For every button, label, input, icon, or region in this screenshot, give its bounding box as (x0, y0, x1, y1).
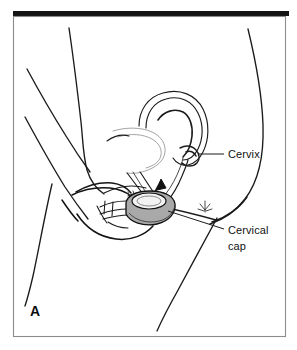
cervix-label: Cervix (228, 148, 260, 160)
forearm-contour (25, 117, 88, 219)
figure-frame (14, 17, 286, 337)
torso-contour (69, 28, 104, 194)
finger-crease-3 (97, 206, 107, 223)
middle-finger (103, 215, 129, 219)
uterus-outline (139, 91, 208, 165)
cervical-cap-illustration: Cervix Cervical cap A (0, 0, 297, 350)
top-rule-bar (13, 11, 289, 16)
panel-letter-label: A (30, 303, 40, 319)
finger-crease-2 (112, 202, 113, 216)
anus-marking (198, 201, 212, 212)
right-thigh-contour (157, 218, 217, 331)
buttock-contour (210, 29, 263, 224)
pubic-bone-outline (107, 135, 129, 141)
cervical-cap-label-line1: Cervical (228, 224, 269, 236)
finger-tip-curve (108, 222, 128, 228)
left-thigh-contour (25, 184, 52, 306)
bladder-inner-outline (118, 135, 161, 168)
illustration-panel: Cervix Cervical cap A (0, 0, 297, 350)
uterus-inner-wall (146, 98, 202, 160)
uterine-cavity-line (158, 110, 192, 157)
cervical-cap-label-line2: cap (228, 240, 246, 252)
